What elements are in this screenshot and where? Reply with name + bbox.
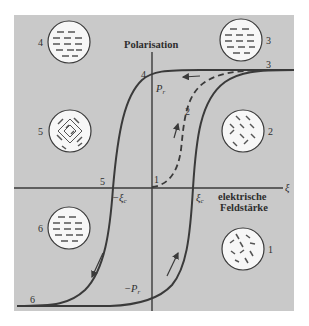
- svg-text:1: 1: [268, 244, 273, 255]
- x-axis-symbol: ξ: [285, 182, 290, 194]
- x-axis-label-line1: elektrische: [218, 191, 267, 202]
- svg-text:2: 2: [268, 126, 273, 137]
- x-axis-label-line2: Feldstärke: [220, 202, 268, 213]
- point-3-label: 3: [266, 59, 271, 70]
- hysteresis-diagram: Polarisation ξ elektrische Feldstärke Pr…: [0, 0, 309, 326]
- point-1-label: 1: [154, 174, 159, 185]
- svg-text:4: 4: [38, 37, 43, 48]
- point-2-label: 2: [185, 106, 190, 117]
- point-5-label: 5: [100, 176, 105, 187]
- point-6-label: 6: [30, 294, 35, 305]
- svg-text:5: 5: [38, 126, 43, 137]
- svg-text:6: 6: [38, 223, 43, 234]
- svg-text:3: 3: [266, 35, 271, 46]
- y-axis-label: Polarisation: [124, 39, 178, 50]
- point-4-label: 4: [141, 69, 146, 80]
